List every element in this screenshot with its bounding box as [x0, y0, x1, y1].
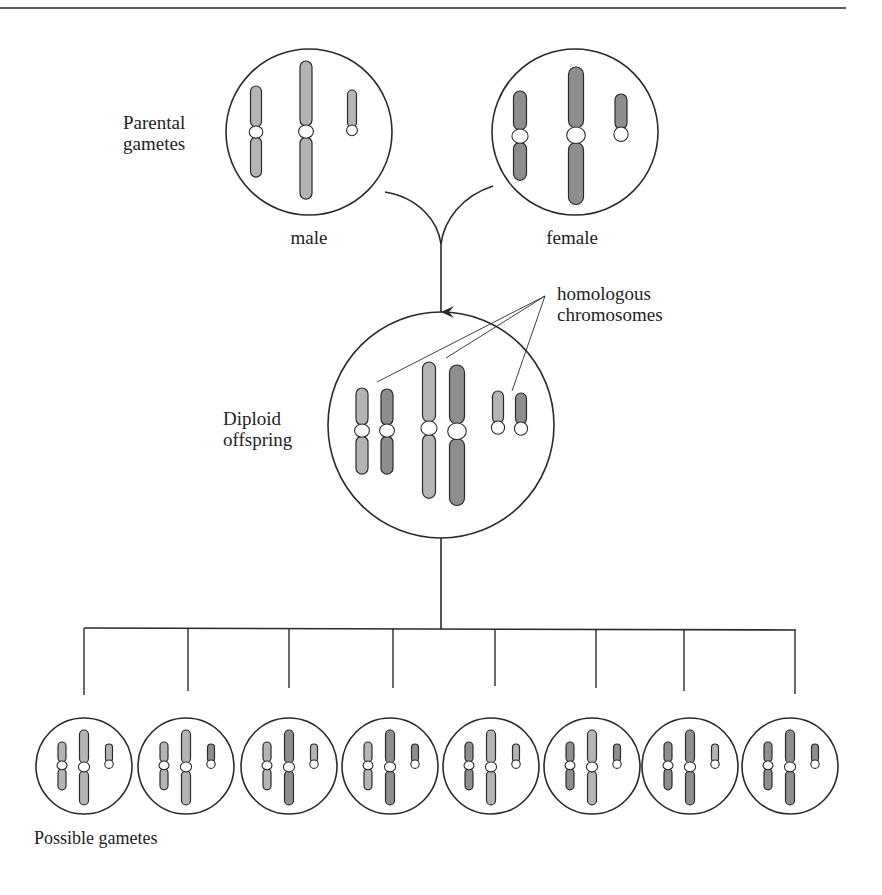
centromere	[57, 761, 67, 770]
centromere	[514, 422, 527, 435]
short-chromosome-male	[711, 744, 719, 768]
centromere	[363, 761, 373, 770]
gamete-1	[36, 718, 132, 814]
centromere	[811, 760, 819, 768]
centromere	[105, 760, 113, 768]
centromere	[614, 127, 628, 141]
gamete-3	[241, 718, 337, 814]
female-gamete-cell	[492, 49, 658, 215]
homologous-chromosomes-label: homologous chromosomes	[557, 283, 663, 325]
centromere	[180, 762, 191, 772]
homologous-label-line1: homologous	[557, 283, 663, 304]
possible-gametes-row	[36, 718, 838, 814]
long-chromosome-male	[421, 362, 437, 498]
medium-chromosome-male	[363, 742, 373, 790]
centromere	[684, 762, 695, 772]
centromere	[262, 761, 272, 770]
short-chromosome-male	[491, 391, 504, 434]
parental-gametes-label-line2: gametes	[123, 133, 185, 154]
medium-chromosome-male	[249, 86, 263, 177]
short-chromosome-male	[512, 744, 520, 768]
centromere	[207, 760, 215, 768]
centromere	[613, 760, 621, 768]
centromere	[464, 761, 474, 770]
long-chromosome-male	[485, 730, 496, 805]
long-chromosome-male	[78, 730, 89, 805]
gamete-8	[742, 718, 838, 814]
centromere	[485, 762, 496, 772]
short-chromosome-female	[811, 744, 819, 768]
centromere	[283, 762, 294, 772]
female-label: female	[546, 227, 598, 248]
long-chromosome-female	[384, 730, 395, 805]
long-chromosome-male	[586, 730, 597, 805]
centromere	[711, 760, 719, 768]
short-chromosome-female	[614, 94, 628, 141]
long-chromosome-female	[684, 730, 695, 805]
medium-chromosome-female	[663, 742, 673, 790]
centromere	[249, 126, 263, 138]
centromere	[78, 762, 89, 772]
long-chromosome-female	[567, 67, 586, 205]
parental-gametes-label-line1: Parental	[123, 112, 185, 133]
centromere	[411, 760, 419, 768]
centromere	[565, 761, 575, 770]
centromere	[512, 760, 520, 768]
centromere	[299, 125, 314, 138]
gamete-4	[342, 718, 438, 814]
short-chromosome-male	[347, 90, 358, 136]
centromere	[763, 761, 773, 770]
medium-chromosome-female	[763, 742, 773, 790]
gamete-6	[544, 718, 640, 814]
centromere	[355, 424, 370, 437]
short-chromosome-male	[310, 744, 318, 768]
medium-chromosome-female	[565, 742, 575, 790]
centromere	[347, 125, 358, 136]
homologous-label-line2: chromosomes	[557, 304, 663, 325]
short-chromosome-female	[514, 393, 527, 435]
centromere	[310, 760, 318, 768]
short-chromosome-male	[105, 744, 113, 768]
medium-chromosome-male	[355, 388, 370, 474]
segregation-tree	[84, 538, 796, 695]
diploid-label-line2: offspring	[223, 429, 292, 450]
centromere	[491, 421, 504, 434]
long-chromosome-male	[180, 730, 191, 805]
medium-chromosome-female	[512, 91, 528, 180]
diploid-label-line1: Diploid	[223, 408, 292, 429]
centromere	[567, 127, 586, 144]
long-chromosome-female	[283, 730, 294, 805]
centromere	[384, 762, 395, 772]
centromere	[784, 762, 795, 772]
centromere	[380, 424, 395, 437]
medium-chromosome-female	[380, 389, 395, 474]
diploid-offspring-label: Diploid offspring	[223, 408, 292, 450]
diagram-figure: Parental gametes male female homologous …	[0, 0, 882, 895]
long-chromosome-female	[448, 365, 467, 506]
gamete-5	[443, 718, 539, 814]
long-chromosome-female	[784, 730, 795, 805]
male-label: male	[291, 227, 328, 248]
medium-chromosome-female	[464, 742, 474, 790]
fertilization-arrow	[385, 186, 493, 312]
male-gamete-cell	[226, 49, 392, 215]
short-chromosome-female	[411, 744, 419, 768]
centromere	[586, 762, 597, 772]
centromere	[159, 761, 169, 770]
parental-gametes-label: Parental gametes	[123, 112, 185, 154]
medium-chromosome-male	[159, 742, 169, 790]
possible-gametes-label: Possible gametes	[34, 828, 158, 849]
gamete-7	[642, 718, 738, 814]
short-chromosome-female	[207, 744, 215, 768]
gamete-2	[138, 718, 234, 814]
centromere	[448, 423, 467, 440]
centromere	[421, 421, 437, 435]
diploid-offspring-cell	[328, 312, 554, 538]
long-chromosome-male	[299, 61, 314, 199]
centromere	[663, 761, 673, 770]
medium-chromosome-male	[57, 742, 67, 790]
short-chromosome-female	[613, 744, 621, 768]
medium-chromosome-male	[262, 742, 272, 790]
centromere	[512, 129, 528, 143]
